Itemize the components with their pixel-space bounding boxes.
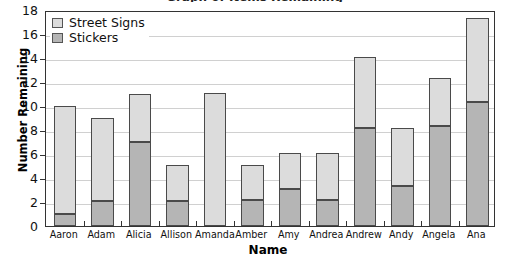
y-tick-label: 14 [0,53,38,65]
bar-segment-stickers[interactable] [129,142,152,226]
bar-andrea[interactable] [316,153,339,226]
y-tick-label: 8 [0,125,38,137]
bar-segment-street-signs[interactable] [241,165,264,200]
bar-segment-street-signs[interactable] [166,165,189,201]
x-tick-label-amber: Amber [233,229,271,240]
x-tick-mark [384,221,385,226]
bar-segment-street-signs[interactable] [466,18,489,102]
bar-segment-stickers[interactable] [354,128,377,226]
bar-amber[interactable] [241,165,264,226]
x-tick-label-alicia: Alicia [120,229,158,240]
x-tick-mark [271,221,272,226]
bar-alicia[interactable] [129,94,152,226]
y-tick-label: 0 [0,221,38,233]
x-tick-label-amanda: Amanda [195,229,233,240]
bar-amy[interactable] [279,153,302,226]
bar-aaron[interactable] [54,106,77,226]
y-tick-label: 18 [0,5,38,17]
bar-segment-stickers[interactable] [466,102,489,226]
x-tick-mark [84,221,85,226]
bar-segment-stickers[interactable] [241,200,264,226]
legend-item-street-signs[interactable]: Street Signs [52,15,145,30]
bar-angela[interactable] [429,78,452,226]
x-tick-label-andrea: Andrea [308,229,346,240]
x-tick-mark [346,221,347,226]
bar-segment-street-signs[interactable] [316,153,339,200]
x-tick-label-andrew: Andrew [345,229,383,240]
x-tick-label-amy: Amy [270,229,308,240]
bar-segment-street-signs[interactable] [354,57,377,128]
x-tick-label-angela: Angela [420,229,458,240]
bar-adam[interactable] [91,118,114,226]
x-tick-label-ana: Ana [458,229,496,240]
bar-segment-stickers[interactable] [91,201,114,226]
x-tick-mark [309,221,310,226]
x-tick-label-andy: Andy [383,229,421,240]
x-tick-mark [121,221,122,226]
y-tick-label: 6 [0,149,38,161]
x-tick-mark [196,221,197,226]
x-tick-label-adam: Adam [83,229,121,240]
bar-segment-stickers[interactable] [166,201,189,226]
y-tick-label: 2 [0,197,38,209]
x-tick-mark [459,221,460,226]
legend-label-street-signs: Street Signs [69,15,145,30]
legend-label-stickers: Stickers [69,30,118,45]
x-tick-mark [159,221,160,226]
y-tick-label: 16 [0,29,38,41]
x-tick-label-allison: Allison [158,229,196,240]
bar-segment-street-signs[interactable] [429,78,452,126]
bar-segment-street-signs[interactable] [391,128,414,187]
bar-segment-stickers[interactable] [54,214,77,226]
bar-allison[interactable] [166,165,189,226]
x-tick-mark [234,221,235,226]
x-axis-title: Name [40,243,496,257]
x-tick-label-aaron: Aaron [45,229,83,240]
x-tick-mark [421,221,422,226]
y-tick-label: 10 [0,101,38,113]
bar-segment-street-signs[interactable] [204,93,227,226]
bar-andrew[interactable] [354,57,377,226]
legend-swatch-street-signs-icon [52,18,63,28]
bar-segment-stickers[interactable] [316,200,339,226]
bar-segment-stickers[interactable] [391,186,414,226]
bar-ana[interactable] [466,18,489,226]
bar-segment-stickers[interactable] [279,189,302,226]
bar-segment-stickers[interactable] [429,126,452,226]
bar-segment-street-signs[interactable] [129,94,152,142]
bar-segment-street-signs[interactable] [54,106,77,214]
bar-segment-street-signs[interactable] [91,118,114,201]
y-tick-label: 12 [0,77,38,89]
y-tick-label: 4 [0,173,38,185]
legend-item-stickers[interactable]: Stickers [52,30,145,45]
bar-segment-street-signs[interactable] [279,153,302,189]
bar-andy[interactable] [391,128,414,226]
legend: Street Signs Stickers [50,14,149,46]
legend-swatch-stickers-icon [52,33,63,43]
bar-amanda[interactable] [204,93,227,226]
bar-chart: Graph of Items Remaining Number Remainin… [0,0,509,263]
